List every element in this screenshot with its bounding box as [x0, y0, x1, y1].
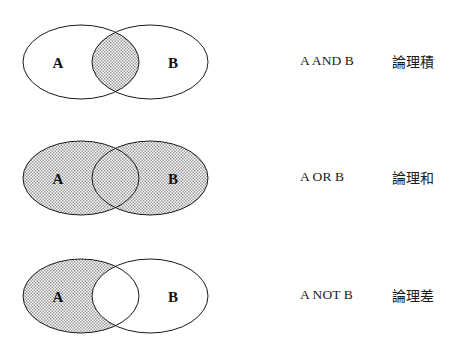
set-a-label: A: [53, 55, 64, 71]
expression-or: A OR B: [300, 169, 392, 185]
term-ja-not: 論理差: [392, 285, 434, 305]
term-ja-and: 論理積: [392, 51, 434, 71]
expression-not: A NOT B: [300, 287, 392, 303]
venn-caption-or: A OR B 論理和: [300, 134, 473, 220]
venn-caption-and: A AND B 論理積: [300, 18, 473, 104]
venn-caption-not: A NOT B 論理差: [300, 252, 473, 338]
term-ja-or: 論理和: [392, 167, 434, 187]
set-b-label: B: [168, 289, 178, 305]
shaded-union: [23, 141, 208, 215]
set-b-label: B: [168, 171, 178, 187]
set-a-label: A: [53, 289, 64, 305]
set-a-label: A: [53, 171, 64, 187]
venn-diagram-figure: A B A AND B 論理積: [0, 0, 473, 350]
venn-diagram-not: A B: [14, 252, 224, 338]
venn-diagram-and: A B: [14, 18, 224, 104]
venn-diagram-or: A B: [14, 134, 224, 220]
expression-and: A AND B: [300, 53, 392, 69]
set-b-label: B: [168, 55, 178, 71]
